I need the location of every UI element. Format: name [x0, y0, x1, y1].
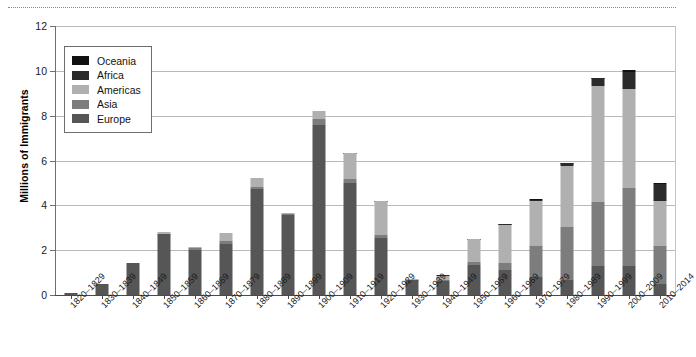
- bar-slot: [459, 26, 490, 295]
- legend-item-asia[interactable]: Asia: [72, 98, 141, 110]
- bar-slot: [210, 26, 241, 295]
- y-tick-label: 2: [7, 244, 47, 256]
- legend-label: Europe: [97, 113, 131, 125]
- bar-segment-americas: [561, 166, 574, 227]
- bar-segment-asia: [592, 202, 605, 266]
- y-tick-label: 10: [7, 65, 47, 77]
- y-tick-label: 12: [7, 20, 47, 32]
- y-tick-label: 4: [7, 199, 47, 211]
- bar-segment-africa: [654, 184, 667, 201]
- y-tick-label: 0: [7, 289, 47, 301]
- top-dotted-rule: [8, 7, 676, 9]
- legend-swatch-icon: [72, 71, 89, 80]
- bar-slot: [272, 26, 303, 295]
- stacked-bar[interactable]: [592, 78, 605, 295]
- legend-label: Asia: [97, 98, 117, 110]
- x-axis-labels: 1820–18291830–18391840–18491850–18591860…: [55, 299, 676, 357]
- bar-slot: [552, 26, 583, 295]
- bar-slot: [521, 26, 552, 295]
- stacked-bar[interactable]: [623, 70, 636, 295]
- bar-slot: [645, 26, 676, 295]
- bar-segment-africa: [623, 72, 636, 89]
- legend-swatch-icon: [72, 114, 89, 123]
- legend-swatch-icon: [72, 100, 89, 109]
- bar-segment-americas: [343, 153, 356, 179]
- bar-segment-americas: [530, 201, 543, 245]
- bar-slot: [148, 26, 179, 295]
- bar-segment-americas: [468, 239, 481, 261]
- y-tick-mark: [50, 295, 55, 296]
- legend-swatch-icon: [72, 56, 89, 65]
- bar-slot: [583, 26, 614, 295]
- bar-segment-africa: [592, 78, 605, 86]
- bar-slot: [614, 26, 645, 295]
- stacked-bar[interactable]: [312, 111, 325, 295]
- legend-item-africa[interactable]: Africa: [72, 69, 141, 81]
- bar-slot: [334, 26, 365, 295]
- bar-slot: [303, 26, 334, 295]
- bar-slot: [179, 26, 210, 295]
- bar-segment-americas: [654, 201, 667, 246]
- bar-segment-asia: [623, 188, 636, 266]
- bar-segment-europe: [312, 125, 325, 295]
- y-tick-label: 6: [7, 155, 47, 167]
- bar-segment-asia: [499, 263, 512, 270]
- bar-slot: [366, 26, 397, 295]
- legend-item-americas[interactable]: Americas: [72, 84, 141, 96]
- bar-slot: [428, 26, 459, 295]
- legend-label: Africa: [97, 69, 124, 81]
- bar-slot: [490, 26, 521, 295]
- bar-slot: [241, 26, 272, 295]
- bar-slot: [397, 26, 428, 295]
- legend-swatch-icon: [72, 85, 89, 94]
- y-tick-label: 8: [7, 110, 47, 122]
- bar-segment-americas: [250, 178, 263, 188]
- legend-label: Americas: [97, 84, 141, 96]
- bar-segment-americas: [499, 225, 512, 264]
- bar-segment-americas: [375, 201, 388, 235]
- legend-label: Oceania: [97, 55, 136, 67]
- legend-item-oceania[interactable]: Oceania: [72, 55, 141, 67]
- bar-segment-americas: [592, 86, 605, 201]
- legend-item-europe[interactable]: Europe: [72, 113, 141, 125]
- bar-segment-americas: [219, 233, 232, 241]
- bar-segment-americas: [312, 111, 325, 119]
- chart-legend: OceaniaAfricaAmericasAsiaEurope: [64, 46, 152, 133]
- bar-segment-americas: [623, 89, 636, 189]
